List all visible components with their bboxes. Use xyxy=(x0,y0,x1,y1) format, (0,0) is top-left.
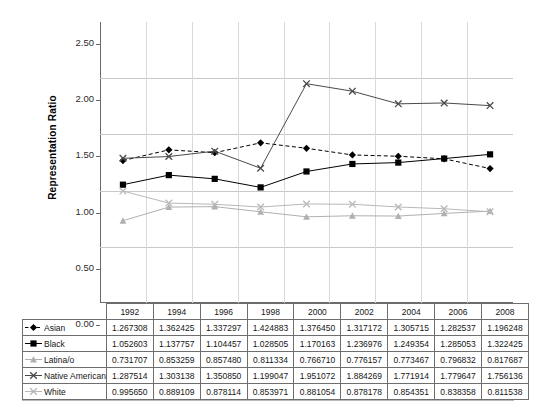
table-row-label-asian: Asian xyxy=(23,320,107,336)
legend-marker-filled-diamond-icon xyxy=(25,322,42,333)
footer-divider xyxy=(22,400,514,401)
table-row-label-latina-o: Latina/o xyxy=(23,352,107,368)
table-cell: 1.199047 xyxy=(247,368,294,384)
legend-label: White xyxy=(44,387,66,397)
table-cell: 1.771914 xyxy=(388,368,435,384)
table-cell: 1.779647 xyxy=(435,368,482,384)
table-row: White0.9956500.8891090.8781140.8539710.8… xyxy=(23,384,529,400)
data-point-marker xyxy=(257,165,264,172)
series-black xyxy=(120,151,493,190)
series-line xyxy=(123,191,490,212)
table-cell: 0.889109 xyxy=(153,384,200,400)
data-point-marker xyxy=(395,153,402,160)
data-point-marker xyxy=(441,155,447,161)
table-header-year-1992: 1992 xyxy=(106,304,153,320)
data-point-marker xyxy=(30,324,37,331)
table-cell: 1.249354 xyxy=(388,336,435,352)
legend-label: Latina/o xyxy=(44,355,74,365)
table-cell: 0.878178 xyxy=(341,384,388,400)
data-point-marker xyxy=(30,340,36,346)
y-tick-label-2-00: 2.00 xyxy=(36,94,94,104)
table-header-year-1998: 1998 xyxy=(247,304,294,320)
table-cell: 0.881054 xyxy=(294,384,341,400)
series-native-american xyxy=(120,80,494,171)
table-row: Asian1.2673081.3624251.3372971.4248831.3… xyxy=(23,320,529,336)
table-cell: 0.811334 xyxy=(247,352,294,368)
legend-label: Asian xyxy=(44,323,65,333)
table-header-year-2002: 2002 xyxy=(341,304,388,320)
plot-area xyxy=(100,22,513,303)
table-body: Asian1.2673081.3624251.3372971.4248831.3… xyxy=(23,320,529,400)
table-corner-cell xyxy=(23,304,107,320)
table-header: 199219941996199820002002200420062008 xyxy=(23,304,529,320)
table-header-year-1994: 1994 xyxy=(153,304,200,320)
y-axis-title: Representation Ratio xyxy=(47,68,58,228)
table-header-year-2006: 2006 xyxy=(435,304,482,320)
table-cell: 0.857480 xyxy=(200,352,247,368)
table-header-year-1996: 1996 xyxy=(200,304,247,320)
table-cell: 0.853259 xyxy=(153,352,200,368)
legend-marker-filled-square-icon xyxy=(25,338,42,349)
table-cell: 0.773467 xyxy=(388,352,435,368)
table-header-row: 199219941996199820002002200420062008 xyxy=(23,304,529,320)
legend-entry: Latina/o xyxy=(25,354,106,365)
data-point-marker xyxy=(212,176,218,182)
y-tick-label-0-50: 0.50 xyxy=(36,263,94,273)
table-cell: 0.995650 xyxy=(106,384,153,400)
data-point-marker xyxy=(395,159,401,165)
series-latina-o xyxy=(120,203,494,223)
legend-entry: Native American xyxy=(25,370,106,381)
table-cell: 1.317172 xyxy=(341,320,388,336)
y-tick-label-1-00: 1.00 xyxy=(36,207,94,217)
y-tick-label-1-50: 1.50 xyxy=(36,150,94,160)
table-header-year-2008: 2008 xyxy=(482,304,529,320)
table-row-label-white: White xyxy=(23,384,107,400)
table-cell: 1.028505 xyxy=(247,336,294,352)
legend-label: Black xyxy=(44,339,65,349)
data-point-marker xyxy=(258,184,264,190)
legend-marker-cross-x-icon xyxy=(25,386,42,397)
data-point-marker xyxy=(487,151,493,157)
table-cell: 0.817687 xyxy=(482,352,529,368)
table-cell: 1.362425 xyxy=(153,320,200,336)
table-row: Latina/o0.7317070.8532590.8574800.811334… xyxy=(23,352,529,368)
table-row: Native American1.2875141.3031381.3508501… xyxy=(23,368,529,384)
series-white xyxy=(120,188,494,215)
data-point-marker xyxy=(165,146,172,153)
data-point-marker xyxy=(349,151,356,158)
data-point-marker xyxy=(120,182,126,188)
table-cell: 1.282537 xyxy=(435,320,482,336)
table-cell: 1.236976 xyxy=(341,336,388,352)
table-cell: 1.170163 xyxy=(294,336,341,352)
table-cell: 1.267308 xyxy=(106,320,153,336)
data-point-marker xyxy=(303,168,309,174)
table-cell: 1.322425 xyxy=(482,336,529,352)
data-point-marker xyxy=(166,172,172,178)
table-cell: 1.951072 xyxy=(294,368,341,384)
series-lines xyxy=(100,22,513,303)
y-tick-label-2-50: 2.50 xyxy=(36,38,94,48)
table-cell: 0.853971 xyxy=(247,384,294,400)
legend-entry: Asian xyxy=(25,322,106,333)
table-header-year-2004: 2004 xyxy=(388,304,435,320)
data-point-marker xyxy=(303,145,310,152)
legend-entry: Black xyxy=(25,338,106,349)
table-row-label-black: Black xyxy=(23,336,107,352)
data-table: 199219941996199820002002200420062008 Asi… xyxy=(22,303,529,400)
legend-entry: White xyxy=(25,386,106,397)
legend-marker-cross-x-icon xyxy=(25,370,42,381)
table-cell: 0.811538 xyxy=(482,384,529,400)
table-cell: 1.424883 xyxy=(247,320,294,336)
series-line xyxy=(123,84,490,169)
table-row-label-native-american: Native American xyxy=(23,368,107,384)
chart-figure: Representation Ratio 0.000.501.001.502.0… xyxy=(0,0,540,410)
table-cell: 1.303138 xyxy=(153,368,200,384)
table-cell: 0.731707 xyxy=(106,352,153,368)
table-cell: 1.376450 xyxy=(294,320,341,336)
data-point-marker xyxy=(349,161,355,167)
table-row: Black1.0526031.1377571.1044571.0285051.1… xyxy=(23,336,529,352)
table-cell: 0.796832 xyxy=(435,352,482,368)
table-cell: 1.285053 xyxy=(435,336,482,352)
table-cell: 1.104457 xyxy=(200,336,247,352)
table-cell: 1.287514 xyxy=(106,368,153,384)
